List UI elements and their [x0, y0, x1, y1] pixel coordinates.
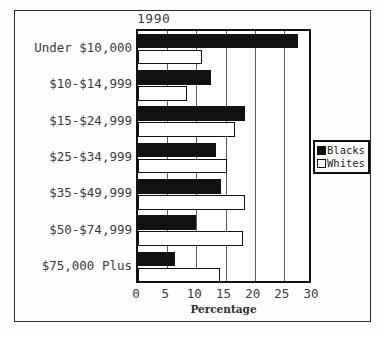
chart-root: 1990 Under $10,000$10-$14,999$15-$24,999…: [0, 0, 384, 337]
bar-group: [138, 249, 309, 285]
legend-label-blacks: Blacks: [327, 145, 365, 156]
y-axis-labels: Under $10,000$10-$14,999$15-$24,999$25-$…: [16, 29, 134, 283]
legend-swatch-blacks-icon: [317, 146, 326, 155]
y-axis-label: $10-$14,999: [49, 76, 132, 91]
y-axis-label: $35-$49,999: [49, 185, 132, 200]
y-axis-label: $75,000 Plus: [42, 257, 132, 272]
chart-legend: Blacks Whites: [313, 140, 370, 174]
bar-blacks: [138, 179, 221, 194]
bar-whites: [138, 195, 245, 210]
bar-blacks: [138, 215, 196, 230]
x-axis-tick-label: 15: [216, 286, 231, 301]
bar-group: [138, 176, 309, 212]
bar-blacks: [138, 106, 245, 121]
y-axis-label: $25-$34,999: [49, 149, 132, 164]
bar-whites: [138, 159, 227, 174]
bar-blacks: [138, 34, 298, 49]
x-axis-tick-label: 10: [187, 286, 202, 301]
x-axis-title: Percentage: [136, 303, 311, 315]
bar-whites: [138, 122, 235, 137]
x-axis-tick-label: 5: [161, 286, 169, 301]
y-axis-label: Under $10,000: [34, 40, 132, 55]
chart-title: 1990: [137, 11, 170, 26]
bar-blacks: [138, 143, 216, 158]
bar-blacks: [138, 252, 175, 267]
legend-label-whites: Whites: [327, 158, 365, 169]
x-axis-tick-label: 0: [132, 286, 140, 301]
bar-whites: [138, 231, 243, 246]
legend-item: Blacks: [317, 144, 365, 157]
bar-group: [138, 140, 309, 176]
bar-whites: [138, 50, 202, 65]
bar-group: [138, 104, 309, 140]
bar-whites: [138, 268, 220, 283]
bar-blacks: [138, 70, 211, 85]
bar-group: [138, 67, 309, 103]
bar-group: [138, 31, 309, 67]
x-axis-ticks: 051015202530: [136, 286, 311, 302]
y-axis-label: $15-$24,999: [49, 112, 132, 127]
plot-area: [136, 29, 311, 283]
bar-whites: [138, 86, 187, 101]
legend-item: Whites: [317, 157, 365, 170]
x-axis-tick-label: 25: [274, 286, 289, 301]
x-axis-tick-label: 20: [245, 286, 260, 301]
bar-rows: [138, 31, 309, 281]
bar-group: [138, 212, 309, 248]
y-axis-label: $50-$74,999: [49, 221, 132, 236]
x-axis-tick-label: 30: [303, 286, 318, 301]
legend-swatch-whites-icon: [317, 159, 326, 168]
